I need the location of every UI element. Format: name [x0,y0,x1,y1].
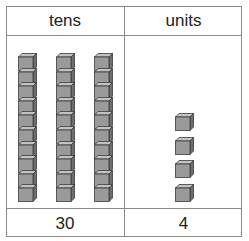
tens-header: tens [6,6,124,36]
ten-rod-cube [94,184,113,202]
unit-cube [175,184,194,202]
units-header: units [125,6,242,36]
tens-value: 30 [6,210,124,237]
unit-cube [175,160,194,178]
column-divider [124,6,125,237]
unit-cube [175,113,194,131]
ten-rod-cube [18,184,37,202]
ten-rod-cube [56,184,75,202]
unit-cube [175,137,194,155]
units-value: 4 [125,210,242,237]
